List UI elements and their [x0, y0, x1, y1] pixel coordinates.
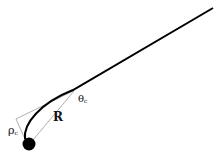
rho-subscript: c — [14, 129, 17, 136]
theta-c-label: θc — [78, 94, 87, 104]
R-label: R — [53, 111, 63, 123]
ball — [23, 138, 36, 151]
diagram-graphics — [0, 0, 223, 156]
diagram-canvas: θc R ρc — [0, 0, 223, 156]
rho-c-label: ρc — [8, 125, 18, 136]
theta-subscript: c — [84, 97, 87, 104]
